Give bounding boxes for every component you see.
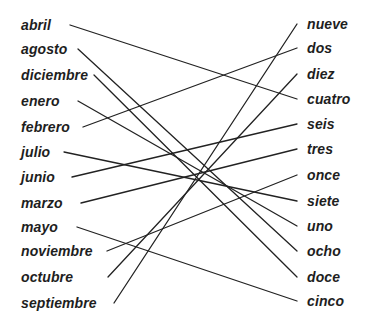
- number-label-doce: doce: [307, 269, 340, 285]
- connector-junio-seis: [72, 124, 297, 177]
- number-label-siete: siete: [307, 193, 339, 209]
- connector-septiembre-nueve: [114, 24, 297, 303]
- month-label-mayo: mayo: [21, 219, 58, 235]
- connector-mayo-cinco: [77, 227, 297, 301]
- month-label-febrero: febrero: [21, 119, 70, 135]
- month-label-junio: junio: [21, 169, 55, 185]
- number-label-tres: tres: [307, 141, 333, 157]
- matching-diagram: abrilagostodiciembreenerofebrerojuliojun…: [0, 0, 370, 331]
- month-label-marzo: marzo: [21, 195, 63, 211]
- number-label-nueve: nueve: [307, 16, 348, 32]
- number-label-ocho: ocho: [307, 243, 341, 259]
- month-label-octubre: octubre: [21, 269, 73, 285]
- month-label-enero: enero: [21, 93, 60, 109]
- month-label-abril: abril: [21, 17, 51, 33]
- month-label-diciembre: diciembre: [21, 67, 88, 83]
- month-label-septiembre: septiembre: [21, 295, 97, 311]
- month-label-noviembre: noviembre: [21, 243, 93, 259]
- number-label-uno: uno: [307, 218, 333, 234]
- connector-febrero-dos: [83, 48, 297, 127]
- month-label-julio: julio: [21, 144, 50, 160]
- number-label-diez: diez: [307, 66, 335, 82]
- connector-enero-uno: [78, 101, 297, 226]
- connector-noviembre-once: [107, 175, 297, 251]
- number-label-once: once: [307, 167, 340, 183]
- month-label-agosto: agosto: [21, 41, 68, 57]
- connector-diciembre-doce: [94, 75, 297, 277]
- number-label-cuatro: cuatro: [307, 91, 350, 107]
- number-label-cinco: cinco: [307, 293, 344, 309]
- number-label-dos: dos: [307, 40, 332, 56]
- connector-marzo-tres: [81, 149, 297, 203]
- number-label-seis: seis: [307, 116, 335, 132]
- connector-abril-cuatro: [70, 25, 297, 99]
- connector-octubre-diez: [108, 74, 297, 277]
